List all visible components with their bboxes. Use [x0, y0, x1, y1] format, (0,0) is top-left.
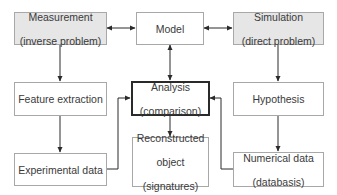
node-hypothesis-title: Hypothesis: [253, 93, 305, 105]
node-reconstructed-object-line2: object: [137, 156, 205, 168]
node-simulation-title: Simulation: [242, 11, 316, 23]
node-feature-extraction-title: Feature extraction: [18, 93, 103, 105]
node-experimental-data: Experimental data: [14, 153, 107, 186]
node-hypothesis: Hypothesis: [233, 82, 324, 116]
node-numerical-data: Numerical data (databasis): [233, 152, 324, 187]
node-reconstructed-object-title: Reconstructed: [137, 132, 205, 144]
node-reconstructed-object-subtitle: (signatures): [137, 180, 205, 192]
node-analysis: Analysis (comparison): [131, 81, 210, 116]
node-reconstructed-object: Reconstructed object (signatures): [132, 137, 209, 187]
node-simulation: Simulation (direct problem): [233, 12, 324, 45]
node-model: Model: [136, 12, 204, 45]
node-analysis-subtitle: (comparison): [140, 105, 201, 117]
flow-diagram: Measurement (inverse problem) Model Simu…: [0, 0, 337, 195]
node-model-title: Model: [156, 23, 185, 35]
node-measurement-title: Measurement: [20, 11, 102, 23]
node-feature-extraction: Feature extraction: [14, 82, 107, 116]
node-analysis-title: Analysis: [140, 81, 201, 93]
node-measurement: Measurement (inverse problem): [14, 12, 107, 45]
node-experimental-data-title: Experimental data: [18, 164, 103, 176]
edge-experimental-analysis: [106, 98, 130, 169]
node-numerical-data-title: Numerical data: [243, 152, 314, 164]
node-measurement-subtitle: (inverse problem): [20, 35, 102, 47]
node-numerical-data-subtitle: (databasis): [243, 176, 314, 188]
node-simulation-subtitle: (direct problem): [242, 35, 316, 47]
edge-numerical-analysis: [210, 98, 233, 169]
